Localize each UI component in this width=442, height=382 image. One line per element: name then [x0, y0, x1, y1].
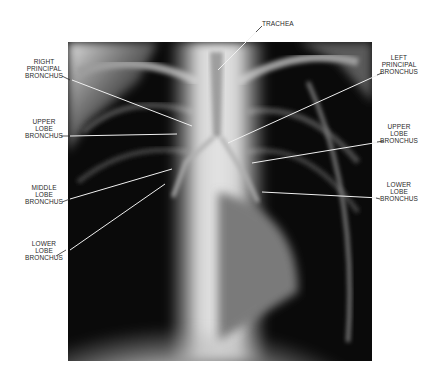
- label-right-lower-lobe-bronchus: LOWER LOBE BRONCHUS: [24, 240, 64, 261]
- label-right-upper-lobe-bronchus: UPPER LOBE BRONCHUS: [24, 118, 64, 139]
- chest-xray-image: [68, 42, 372, 361]
- label-right-principal-bronchus: RIGHT PRINCIPAL BRONCHUS: [24, 58, 64, 79]
- label-middle-lobe-bronchus: MIDDLE LOBE BRONCHUS: [24, 184, 64, 205]
- xray-rendering: [68, 42, 372, 361]
- label-left-principal-bronchus: LEFT PRINCIPAL BRONCHUS: [379, 54, 419, 75]
- label-left-lower-lobe-bronchus: LOWER LOBE BRONCHUS: [379, 181, 419, 202]
- label-trachea: TRACHEA: [262, 20, 294, 27]
- label-left-upper-lobe-bronchus: UPPER LOBE BRONCHUS: [379, 123, 419, 144]
